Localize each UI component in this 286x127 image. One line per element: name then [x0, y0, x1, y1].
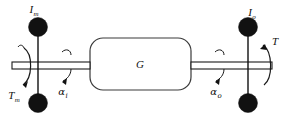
output-accel-arrowhead — [215, 78, 220, 85]
input-accel-label: αi — [58, 86, 68, 100]
input-accel-arrowhead — [62, 78, 67, 85]
input-inertia-label: Im — [28, 3, 38, 18]
input-accel-arc-lower — [63, 69, 71, 81]
gear-train-diagram: G Im Tm αi — [0, 0, 286, 127]
input-inertia-disc-bottom — [29, 94, 48, 113]
output-inertia-disc-bottom — [239, 94, 258, 113]
output-accel-label: αo — [210, 86, 221, 100]
output-accel-arc-lower — [216, 69, 224, 81]
input-torque-arc-tail — [18, 45, 24, 48]
diagram-canvas: G Im Tm αi — [0, 0, 286, 127]
output-torque-label: T — [272, 35, 279, 47]
input-shaft — [12, 62, 90, 69]
output-shaft — [191, 62, 272, 69]
input-inertia-disc-top — [29, 18, 48, 37]
input-torque-label: Tm — [8, 89, 20, 104]
gearbox-label: G — [136, 58, 144, 70]
output-accel-arc — [215, 50, 224, 55]
input-accel-arc — [62, 50, 71, 55]
